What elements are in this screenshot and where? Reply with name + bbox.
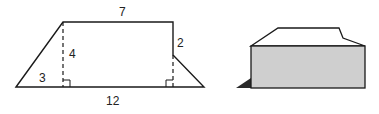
solid-front-face (251, 46, 365, 88)
solid-roof (251, 28, 365, 46)
label-bottom: 12 (106, 94, 120, 108)
solid-shadow (236, 78, 251, 88)
right-angle-marker-left (63, 80, 70, 87)
trapezoid-figure: 7 4 2 3 12 (16, 5, 204, 108)
solid-figure (236, 28, 365, 88)
right-angle-marker-right (166, 80, 173, 87)
label-left-height: 4 (69, 47, 76, 61)
label-left-base-segment: 3 (39, 71, 46, 85)
label-top: 7 (119, 5, 126, 19)
diagram-canvas: 7 4 2 3 12 (0, 0, 379, 114)
label-right-height: 2 (177, 36, 184, 50)
